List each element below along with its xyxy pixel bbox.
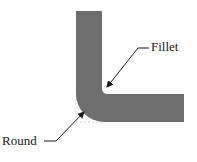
l-shaped-part — [76, 11, 184, 122]
round-leader — [44, 112, 84, 141]
round-label: Round — [2, 134, 37, 147]
fillet-leader — [107, 48, 149, 87]
fillet-label: Fillet — [151, 40, 178, 53]
fillet-round-diagram: Fillet Round — [0, 0, 197, 162]
